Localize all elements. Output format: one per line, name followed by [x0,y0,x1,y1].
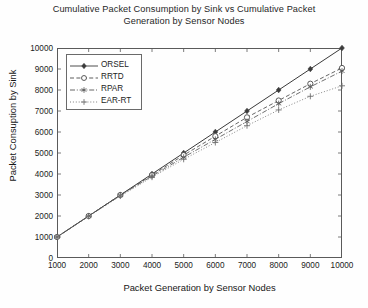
x-tick-2000: 2000 [80,261,98,270]
chart-title-line-1: Cumulative Packet Consumption by Sink vs… [24,3,344,15]
y-tick-4000: 4000 [35,170,53,179]
y-tick-10000: 10000 [30,44,53,53]
legend-label: EAR-RT [99,96,131,105]
legend-label: ORSEL [99,60,129,69]
x-tick-6000: 6000 [206,261,224,270]
chart-title-line-2: Generation by Sensor Nodes [24,15,344,27]
legend-symbol-rpar-icon [69,82,99,94]
x-tick-4000: 4000 [143,261,161,270]
y-tick-5000: 5000 [35,149,53,158]
x-tick-8000: 8000 [270,261,288,270]
y-tick-9000: 9000 [35,65,53,74]
legend-item-rrtd[interactable]: RRTD [69,70,138,82]
chart-legend: ORSELRRTDRPAREAR-RT [66,54,142,110]
chart-title: Cumulative Packet Consumption by Sink vs… [24,3,344,28]
legend-label: RPAR [99,84,123,93]
x-tick-7000: 7000 [238,261,256,270]
y-tick-1000: 1000 [35,233,53,242]
legend-symbol-ear-rt-icon [69,94,99,106]
legend-item-ear-rt[interactable]: EAR-RT [69,94,138,106]
legend-symbol-rrtd-icon [69,70,99,82]
legend-item-rpar[interactable]: RPAR [69,82,138,94]
y-tick-3000: 3000 [35,191,53,200]
x-axis-label: Packet Generation by Sensor Nodes [57,282,342,293]
y-tick-7000: 7000 [35,107,53,116]
y-axis-label: Packet Consuption by Sink [7,26,18,226]
x-tick-9000: 9000 [301,261,319,270]
legend-label: RRTD [99,72,124,81]
x-tick-3000: 3000 [111,261,129,270]
y-tick-8000: 8000 [35,86,53,95]
x-axis-tick-labels: 1000200030004000500060007000800090001000… [0,261,368,277]
legend-symbol-orsel-icon [69,58,99,70]
y-tick-2000: 2000 [35,212,53,221]
legend-item-orsel[interactable]: ORSEL [69,58,138,70]
x-tick-5000: 5000 [175,261,193,270]
x-tick-1000: 1000 [48,261,66,270]
chart-figure: Cumulative Packet Consumption by Sink vs… [0,0,368,308]
y-tick-6000: 6000 [35,128,53,137]
x-tick-10000: 10000 [331,261,354,270]
